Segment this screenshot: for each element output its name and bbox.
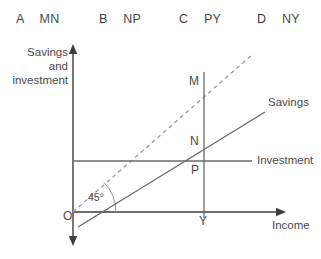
savings-label: Savings <box>268 96 309 108</box>
income-label: Income <box>272 219 310 231</box>
point-n-label: N <box>190 134 199 148</box>
diagram-screenshot: A MN B NP C PY D NY <box>0 0 321 259</box>
y-axis-label: Savings and investment <box>0 45 68 87</box>
origin-label: O <box>63 209 72 223</box>
investment-label: Investment <box>257 154 313 166</box>
x-axis <box>73 208 286 216</box>
forty-five-degree-line <box>73 54 253 212</box>
point-m-label: M <box>189 74 199 88</box>
angle-45-label: 45° <box>88 191 104 203</box>
savings-line <box>78 112 265 227</box>
point-y-label: Y <box>199 214 207 228</box>
y-axis-label-line-2: and <box>0 59 68 73</box>
y-axis-label-line-3: investment <box>0 73 68 87</box>
point-p-label: P <box>191 163 199 177</box>
y-axis-label-line-1: Savings <box>0 45 68 59</box>
